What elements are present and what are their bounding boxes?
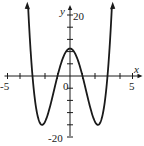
y-axis-label: y: [59, 5, 65, 17]
curve-right-arrow-icon: [110, 2, 115, 10]
x-tick-label-min: -5: [0, 80, 10, 92]
y-tick-label-min: -20: [48, 132, 63, 144]
x-tick-label-max: 5: [129, 80, 135, 92]
x-axis-label: x: [133, 63, 139, 75]
function-graph: x y -5 0 5 20 -20: [0, 0, 144, 146]
curve-left-arrow-icon: [25, 2, 30, 10]
axes: [5, 7, 141, 136]
y-tick-label-max: 20: [73, 10, 85, 22]
x-tick-label-origin: 0: [63, 80, 69, 92]
y-axis-arrow-icon: [68, 5, 72, 10]
